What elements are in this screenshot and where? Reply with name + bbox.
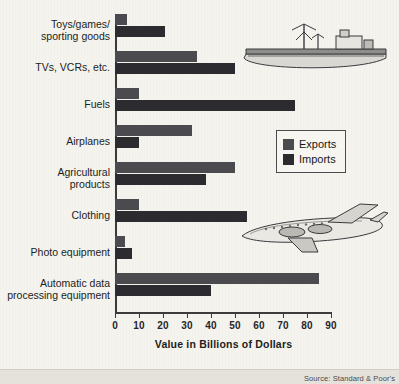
x-tick: [163, 312, 164, 318]
legend-swatch-imports: [283, 154, 294, 165]
bar-exports: [115, 236, 125, 247]
x-tick-label: 70: [277, 320, 288, 331]
x-tick: [235, 312, 236, 318]
chart-legend: Exports Imports: [276, 130, 346, 173]
bar-imports: [115, 248, 132, 259]
legend-label-exports: Exports: [299, 138, 336, 150]
x-axis-line: [115, 312, 332, 314]
bar-imports: [115, 137, 139, 148]
legend-swatch-exports: [283, 139, 294, 150]
category-label: Airplanes: [66, 136, 110, 148]
x-tick: [283, 312, 284, 318]
x-tick-label: 0: [112, 320, 118, 331]
x-tick-label: 90: [325, 320, 336, 331]
cargo-ship-icon: [240, 18, 392, 80]
x-tick: [187, 312, 188, 318]
legend-label-imports: Imports: [299, 153, 336, 165]
x-tick: [307, 312, 308, 318]
category-label: Photo equipment: [31, 247, 110, 259]
x-tick-label: 20: [157, 320, 168, 331]
x-tick: [139, 312, 140, 318]
bar-imports: [115, 100, 295, 111]
bar-imports: [115, 63, 235, 74]
bar-exports: [115, 162, 235, 173]
legend-item-imports: Imports: [283, 152, 336, 166]
chart-page: 0102030405060708090 Toys/games/ sporting…: [0, 0, 399, 384]
x-tick: [211, 312, 212, 318]
category-label: Clothing: [71, 210, 110, 222]
category-label: Fuels: [84, 99, 110, 111]
category-label: TVs, VCRs, etc.: [35, 62, 110, 74]
grouped-bar-chart: 0102030405060708090 Toys/games/ sporting…: [0, 0, 399, 340]
bar-exports: [115, 125, 192, 136]
x-tick-label: 50: [229, 320, 240, 331]
x-tick-label: 10: [133, 320, 144, 331]
x-axis-title: Value in Billions of Dollars: [115, 338, 332, 350]
bar-exports: [115, 273, 319, 284]
x-tick: [259, 312, 260, 318]
bar-imports: [115, 285, 211, 296]
legend-item-exports: Exports: [283, 137, 336, 151]
bar-exports: [115, 199, 139, 210]
bar-imports: [115, 26, 165, 37]
source-note: Source: Standard & Poor's: [304, 374, 395, 383]
x-tick-label: 60: [253, 320, 264, 331]
category-label: Agricultural products: [57, 167, 110, 190]
bar-exports: [115, 88, 139, 99]
x-tick: [115, 312, 116, 318]
bar-exports: [115, 51, 197, 62]
bar-exports: [115, 14, 127, 25]
bar-imports: [115, 174, 206, 185]
x-tick-label: 30: [181, 320, 192, 331]
airplane-icon: [232, 196, 396, 264]
category-label: Toys/games/ sporting goods: [41, 19, 110, 42]
x-tick: [331, 312, 332, 318]
bar-imports: [115, 211, 247, 222]
x-tick-label: 80: [301, 320, 312, 331]
x-tick-label: 40: [205, 320, 216, 331]
category-label: Automatic data processing equipment: [7, 278, 110, 301]
